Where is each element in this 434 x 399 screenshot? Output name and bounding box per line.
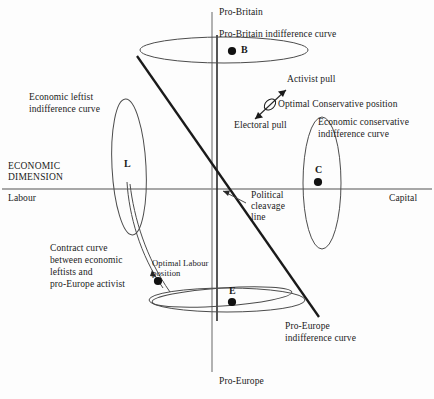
label-contract-curve-line2: between economic (50, 255, 123, 267)
label-economic-conservative-curve-line1: Economic conservative (318, 117, 409, 129)
label-point-c: C (315, 164, 322, 176)
axis-name-dimension-line2: DIMENSION (8, 172, 63, 184)
pro-europe-indifference-ellipse-inner (152, 283, 293, 311)
axis-label-labour: Labour (8, 193, 36, 205)
axis-label-capital: Capital (389, 193, 417, 205)
label-pro-britain-indifference-curve: Pro-Britain indifference curve (219, 29, 336, 41)
label-contract-curve-line4: pro-Europe activist (50, 279, 125, 291)
axis-name-economic-line1: ECONOMIC (8, 161, 60, 173)
label-political-cleavage-line2: cleavage (251, 201, 285, 213)
label-contract-curve-line3: leftists and (50, 267, 93, 279)
point-c-dot (314, 178, 322, 186)
label-electoral-pull: Electoral pull (234, 120, 287, 132)
label-pro-europe-curve-line1: Pro-Europe (285, 321, 330, 333)
label-optimal-labour-position-line2: position (152, 268, 181, 278)
label-pro-europe-curve-line2: indifference curve (285, 333, 356, 345)
diagram-canvas (0, 0, 434, 399)
label-economic-leftist-curve-line2: indifference curve (29, 104, 100, 116)
label-optimal-labour-position-line1: Optimal Labour (152, 258, 209, 268)
label-economic-conservative-curve-line2: indifference curve (318, 129, 389, 141)
label-political-cleavage-line1: Political (251, 190, 284, 202)
label-point-b: B (241, 44, 248, 56)
label-activist-pull: Activist pull (287, 74, 336, 86)
axis-label-pro-europe: Pro-Europe (219, 376, 264, 388)
political-cleavage-pointer-arrowhead (223, 191, 230, 197)
point-b-dot (228, 47, 236, 55)
label-economic-leftist-curve-line1: Economic leftist (29, 92, 93, 104)
label-political-cleavage-line3: line (251, 212, 266, 224)
label-point-e: E (229, 285, 236, 297)
pro-europe-indifference-ellipse-outer (149, 288, 305, 312)
label-point-l: L (124, 158, 131, 170)
label-contract-curve-line1: Contract curve (50, 243, 108, 255)
axis-label-pro-britain: Pro-Britain (219, 7, 263, 19)
label-optimal-conservative-position: Optimal Conservative position (278, 99, 398, 111)
point-e-dot (228, 298, 236, 306)
political-space-diagram: Pro-Britain Pro-Europe ECONOMIC DIMENSIO… (0, 0, 434, 399)
pro-britain-indifference-ellipse (140, 37, 308, 63)
